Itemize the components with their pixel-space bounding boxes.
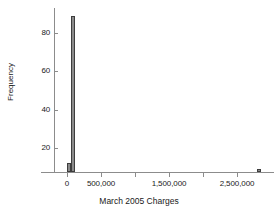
y-axis-tick-40: [54, 110, 58, 111]
y-axis-tick-label-60-wrap: 60: [26, 67, 50, 75]
y-axis-tick-80: [54, 33, 58, 34]
y-axis-tick-label-40-wrap: 40: [26, 106, 50, 114]
histogram-bar: [71, 16, 75, 172]
histogram-chart: 20 40 60 80 Frequency 0 500,000 1,500,00…: [0, 0, 278, 217]
y-axis-tick-20: [54, 148, 58, 149]
y-axis-tick-label-80-wrap: 80: [26, 29, 50, 37]
x-axis-tick-2000000: [203, 173, 204, 177]
x-axis-tick-1500000: [169, 173, 170, 177]
x-axis-title: March 2005 Charges: [0, 196, 278, 206]
x-axis-tick-1000000: [135, 173, 136, 177]
x-axis-tick-2500000: [237, 173, 238, 177]
x-axis-tick-label-500000: 500,000: [75, 179, 127, 188]
x-axis-tick-500000: [101, 173, 102, 177]
y-axis-title: Frequency: [7, 52, 15, 112]
y-axis-tick-60: [54, 71, 58, 72]
x-axis-tick-label-0: 0: [57, 179, 77, 188]
histogram-bar: [257, 169, 261, 172]
x-axis-line: [41, 172, 274, 173]
x-axis-tick-label-2500000: 2,500,000: [208, 179, 266, 188]
y-axis-tick-label-40: 40: [28, 106, 50, 114]
x-axis-tick-0: [67, 173, 68, 177]
y-axis-tick-label-20-wrap: 20: [26, 144, 50, 152]
y-axis-tick-label-20: 20: [28, 144, 50, 152]
x-axis-tick-label-1500000: 1,500,000: [140, 179, 198, 188]
y-axis-tick-label-80: 80: [28, 29, 50, 37]
y-axis-tick-label-60: 60: [28, 67, 50, 75]
